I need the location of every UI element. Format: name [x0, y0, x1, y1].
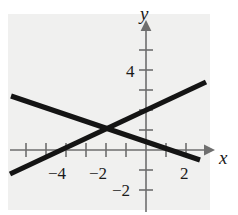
x-axis-label: x — [219, 148, 227, 167]
y-tick-label-minus-2: −2 — [112, 182, 130, 199]
x-tick-label-2: 2 — [180, 165, 189, 182]
y-axis-label: y — [140, 4, 148, 23]
x-tick-label-minus-2: −2 — [89, 165, 107, 182]
graph-figure: y x −4 −2 2 4 −2 — [0, 0, 238, 215]
x-tick-label-minus-4: −4 — [48, 165, 66, 182]
y-tick-label-4: 4 — [126, 63, 135, 80]
